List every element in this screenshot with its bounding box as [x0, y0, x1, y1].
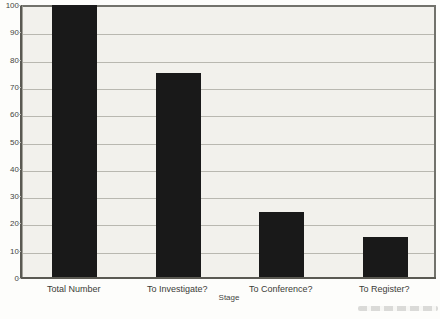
- plot-area: [22, 5, 436, 278]
- y-tick-mark: [17, 114, 21, 115]
- y-tick-mark: [17, 223, 21, 224]
- y-tick-mark: [17, 32, 21, 33]
- y-tick-mark: [17, 196, 21, 197]
- y-tick-mark: [17, 60, 21, 61]
- x-axis-line: [20, 277, 436, 279]
- y-tick-mark: [17, 169, 21, 170]
- y-tick-mark: [17, 142, 21, 143]
- y-tick-mark: [17, 5, 21, 6]
- y-tick-mark: [17, 278, 21, 279]
- y-tick-mark: [17, 251, 21, 252]
- y-tick-mark: [17, 87, 21, 88]
- scan-artifact: [358, 306, 438, 311]
- bar-chart-screenshot: 0102030405060708090100 Total NumberTo In…: [0, 0, 440, 319]
- bar-to-investigate: [156, 73, 201, 278]
- bar-to-register: [363, 237, 408, 278]
- bar-total-number: [52, 5, 97, 278]
- x-axis-title: Stage: [22, 293, 436, 302]
- bar-to-conference: [259, 212, 304, 278]
